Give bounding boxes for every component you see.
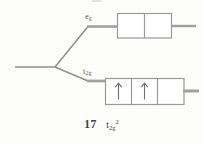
figure-caption: 17 t2g2 (0, 118, 203, 131)
caption-number: 17 (84, 118, 96, 130)
t2g-level-label: t2g (83, 66, 91, 76)
crystal-field-splitting-figure: eg t2g 17 t2g2 (0, 0, 203, 144)
caption-configuration: t2g2 (106, 120, 118, 130)
caption-config-superscript: 2 (115, 118, 118, 125)
eg-level-label: eg (85, 11, 92, 21)
branch-line-to-eg (55, 27, 88, 68)
t2g-label-subscript: 2g (85, 70, 91, 76)
eg-label-subscript: g (89, 15, 92, 21)
caption-config-subscript: 2g (109, 124, 116, 131)
